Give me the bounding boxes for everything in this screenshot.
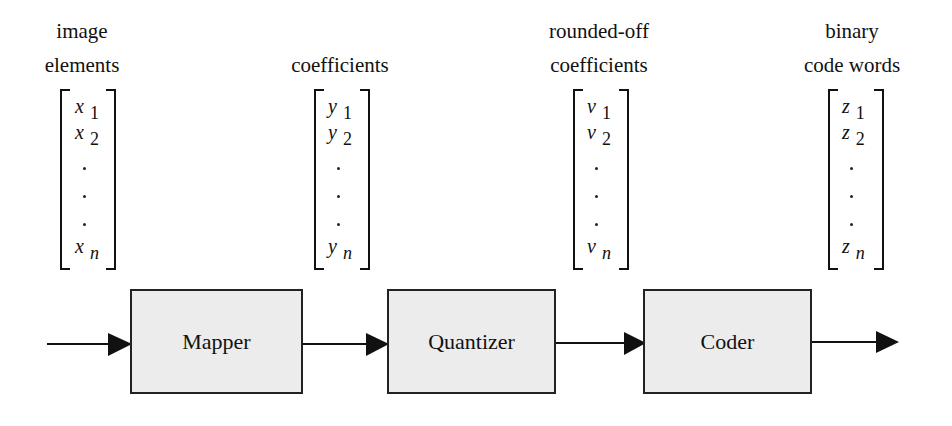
arrow-head-icon: [108, 333, 132, 356]
quantizer-block: Quantizer: [387, 289, 556, 394]
block-label: Coder: [701, 329, 755, 355]
arrow-head-icon: [876, 331, 899, 353]
coder-block: Coder: [643, 289, 812, 394]
mapper-block: Mapper: [130, 289, 303, 394]
block-label: Quantizer: [428, 329, 515, 355]
block-label: Mapper: [182, 329, 250, 355]
arrow-head-icon: [366, 333, 389, 356]
